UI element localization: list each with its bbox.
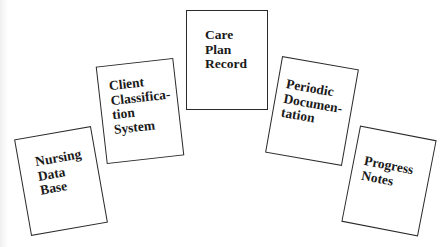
card-progress-notes: Progress Notes xyxy=(341,125,436,236)
card-label: Client Classifica- tion System xyxy=(98,72,180,138)
card-periodic-documentation: Periodic Documen- tation xyxy=(265,56,359,166)
card-label: Care Plan Record xyxy=(187,28,267,72)
card-label: Nursing Data Base xyxy=(18,145,100,201)
card-client-classification-system: Client Classifica- tion System xyxy=(96,58,185,164)
page-edge-shadow xyxy=(0,0,8,247)
card-care-plan-record: Care Plan Record xyxy=(186,10,268,110)
card-nursing-data-base: Nursing Data Base xyxy=(14,126,108,236)
card-label: Progress Notes xyxy=(350,152,430,195)
card-label: Periodic Documen- tation xyxy=(272,76,354,132)
